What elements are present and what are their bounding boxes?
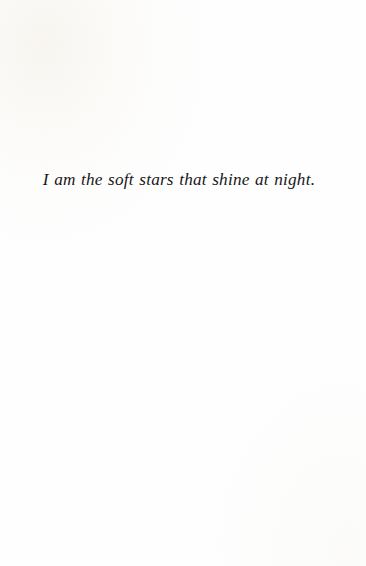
poem-line: I am the soft stars that shine at night. <box>43 168 315 191</box>
book-page: I am the soft stars that shine at night. <box>0 0 366 566</box>
paper-texture-overlay <box>0 0 366 566</box>
page-text-block: I am the soft stars that shine at night. <box>0 168 366 191</box>
